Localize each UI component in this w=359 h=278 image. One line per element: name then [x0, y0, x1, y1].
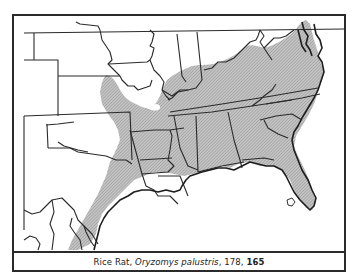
caption-common-name: Rice Rat: [94, 257, 130, 267]
map-frame: Rice Rat, Oryzomys palustris, 178, 165: [12, 14, 346, 272]
map-caption: Rice Rat, Oryzomys palustris, 178, 165: [14, 251, 344, 270]
map-svg: [14, 16, 344, 251]
lake-okeechobee: [287, 198, 295, 206]
caption-scientific-name: Oryzomys palustris: [135, 257, 219, 267]
caption-page-ref: 178: [224, 257, 241, 267]
caption-plate-ref: 165: [246, 257, 264, 267]
range-map: [14, 16, 344, 251]
